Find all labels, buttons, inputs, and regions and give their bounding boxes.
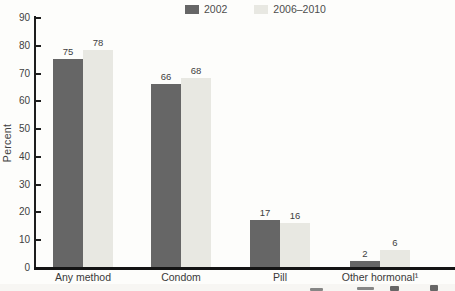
legend-item-2002: 2002 [185,3,227,15]
bar-2006-2010-other-hormonal [380,250,410,267]
bar-2006-2010-condom [181,78,211,267]
bar-2006-2010-pill [280,223,310,267]
legend-item-2006-2010: 2006–2010 [254,3,326,15]
chart-legend: 2002 2006–2010 [185,3,326,15]
y-axis-tick [36,100,41,102]
bar-2002-pill [250,220,280,267]
legend-label-2002: 2002 [204,3,227,15]
y-axis-tick [36,156,41,158]
bar-value-label: 2 [350,248,380,260]
y-axis-tick-label: 70 [0,68,30,79]
y-axis-tick-label: 10 [0,234,30,245]
y-axis-tick [36,73,41,75]
y-axis-tick-label: 50 [0,123,30,134]
y-axis-tick [36,17,41,19]
bar-value-label: 16 [280,210,310,222]
bar-2006-2010-any-method [83,50,113,267]
scan-artifact [390,286,399,291]
bar-value-label: 66 [151,71,181,83]
bar-value-label: 17 [250,207,280,219]
y-axis-tick [36,211,41,213]
y-axis-line [34,16,36,270]
legend-swatch-2002 [185,5,199,14]
bar-2002-condom [151,84,181,267]
scan-artifact [357,287,374,290]
bar-value-label: 6 [380,237,410,249]
y-axis-tick-label: 90 [0,12,30,23]
y-axis-tick-label: 20 [0,206,30,217]
y-axis-tick [36,239,41,241]
legend-swatch-2006-2010 [254,5,268,14]
scan-artifact [430,285,438,291]
y-axis-tick-label: 40 [0,151,30,162]
y-axis-tick [36,45,41,47]
scan-bottom-band [0,284,455,291]
y-axis-tick-label: 30 [0,179,30,190]
y-axis-tick-label: 80 [0,40,30,51]
grouped-bar-chart-figure: 2002 2006–2010 Percent 01020304050607080… [0,0,455,291]
bar-value-label: 78 [83,37,113,49]
bar-value-label: 68 [181,65,211,77]
legend-label-2006-2010: 2006–2010 [273,3,326,15]
x-axis-category-label: Other hormonal¹ [315,271,445,283]
x-axis-line [34,267,455,270]
bar-2002-any-method [53,59,83,267]
y-axis-tick [36,184,41,186]
y-axis-tick-label: 60 [0,95,30,106]
bar-value-label: 75 [53,46,83,58]
y-axis-tick [36,128,41,130]
